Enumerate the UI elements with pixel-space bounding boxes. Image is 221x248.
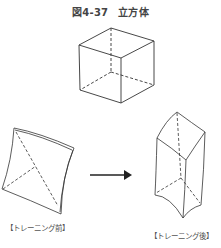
after-label: 【トレーニング後】 — [150, 230, 213, 241]
reference-cube — [79, 28, 154, 103]
before-sketch — [2, 128, 74, 214]
diagram-canvas — [0, 0, 221, 248]
before-label: 【トレーニング前】 — [6, 222, 69, 233]
after-sketch — [155, 112, 205, 218]
arrow-icon — [90, 170, 132, 180]
